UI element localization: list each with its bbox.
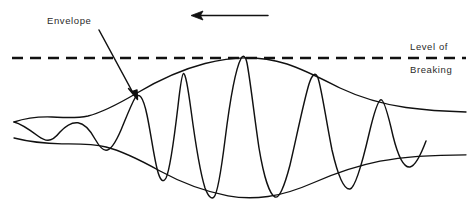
arrow-left-icon bbox=[191, 11, 268, 20]
level-of-label: Level of bbox=[410, 41, 448, 52]
arrow-pointer-icon bbox=[99, 30, 138, 100]
carrier-wave-curve bbox=[14, 56, 426, 198]
breaking-label: Breaking bbox=[410, 64, 452, 75]
lower-envelope-curve bbox=[14, 138, 466, 198]
wave-envelope-diagram bbox=[0, 0, 470, 205]
upper-envelope-curve bbox=[14, 58, 466, 122]
envelope-label: Envelope bbox=[47, 15, 91, 26]
